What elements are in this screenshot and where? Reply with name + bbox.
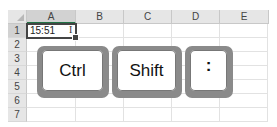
row-header-7[interactable]: 7: [8, 108, 27, 122]
cell-a1-value: 15:51: [30, 25, 55, 36]
column-header-e[interactable]: E: [220, 10, 269, 24]
column-header-a[interactable]: A: [27, 10, 76, 24]
key-shift-label: Shift: [117, 50, 176, 91]
gridline: [27, 107, 268, 108]
gridline: [27, 121, 268, 122]
key-ctrl-label: Ctrl: [42, 50, 103, 91]
row-header-6[interactable]: 6: [8, 94, 27, 108]
text-cursor-icon: I: [69, 24, 72, 35]
key-ctrl: Ctrl: [37, 46, 109, 98]
gridline: [267, 24, 268, 122]
select-all-corner[interactable]: [8, 10, 27, 24]
row-header-1[interactable]: 1: [8, 24, 27, 38]
row-header-2[interactable]: 2: [8, 38, 27, 52]
column-header-d[interactable]: D: [172, 10, 220, 24]
column-header-c[interactable]: C: [124, 10, 172, 24]
key-shift: Shift: [112, 46, 182, 98]
key-colon: :: [185, 46, 233, 98]
row-header-4[interactable]: 4: [8, 66, 27, 80]
row-header-5[interactable]: 5: [8, 80, 27, 94]
fill-handle[interactable]: [72, 34, 79, 41]
row-header-3[interactable]: 3: [8, 52, 27, 66]
key-colon-label: :: [190, 50, 227, 91]
column-header-b[interactable]: B: [76, 10, 124, 24]
